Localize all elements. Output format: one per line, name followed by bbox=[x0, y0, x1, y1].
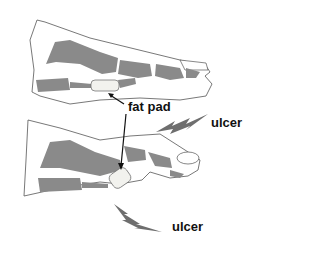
ulcer-lightning-top bbox=[156, 114, 208, 134]
ulcer-label-top: ulcer bbox=[211, 115, 242, 130]
top-fat-pad bbox=[91, 80, 119, 91]
ulcer-label-bottom: ulcer bbox=[172, 219, 203, 234]
fat-pad-label: fat pad bbox=[128, 99, 171, 114]
ulcer-lightning-bottom bbox=[114, 204, 162, 232]
